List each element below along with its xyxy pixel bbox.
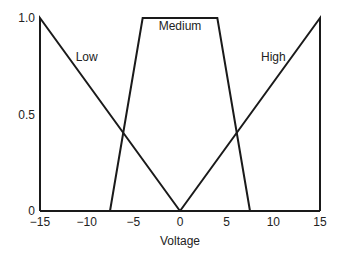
x-tick-label: −10 [76, 215, 97, 229]
x-axis-label: Voltage [160, 234, 200, 248]
x-tick-label: 0 [177, 215, 184, 229]
x-tick-label: 5 [223, 215, 230, 229]
x-tick-label: −5 [126, 215, 140, 229]
y-tick-label: 1.0 [18, 11, 35, 25]
y-tick-label: 0.5 [18, 108, 35, 122]
series-medium [110, 18, 250, 211]
y-tick-label: 0 [28, 204, 35, 218]
series-label-medium: Medium [159, 19, 202, 33]
membership-function-chart: −15−10−5051015 00.51.0 LowMediumHigh Vol… [0, 0, 340, 260]
series-high [180, 18, 320, 211]
y-tick-labels: 00.51.0 [18, 11, 35, 218]
x-tick-label: 10 [267, 215, 281, 229]
series-label-high: High [261, 50, 286, 64]
series-label-low: Low [76, 50, 98, 64]
series-labels: LowMediumHigh [76, 19, 286, 64]
x-tick-label: 15 [313, 215, 327, 229]
plot-area [40, 18, 320, 211]
series-low [40, 18, 180, 211]
x-tick-labels: −15−10−5051015 [30, 215, 327, 229]
